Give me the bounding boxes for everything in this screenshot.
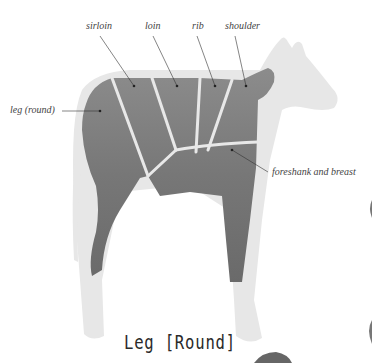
label-loin: loin: [145, 20, 161, 31]
edge-image-fragment-1: [370, 200, 372, 218]
meat-cut-photo-fragment: [254, 352, 292, 363]
label-leg-round: leg (round): [10, 104, 55, 115]
section-title: Leg [Round]: [124, 330, 236, 354]
label-shoulder: shoulder: [225, 20, 260, 31]
cut-regions: [82, 68, 274, 282]
veal-cuts-diagram: sirloin loin rib shoulder leg (round) fo…: [0, 0, 374, 363]
calf-illustration: [0, 0, 374, 363]
label-foreshank-breast: foreshank and breast: [272, 166, 356, 177]
edge-image-fragment-2: [369, 320, 372, 344]
label-sirloin: sirloin: [86, 20, 112, 31]
label-rib: rib: [192, 20, 204, 31]
